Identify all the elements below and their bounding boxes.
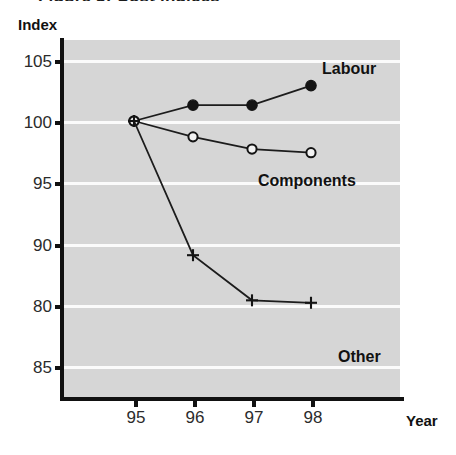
data-point-labour (306, 80, 316, 90)
series-line-labour (134, 86, 311, 121)
data-point-components (306, 148, 315, 157)
series-line-components (134, 121, 311, 153)
data-point-labour (247, 100, 257, 110)
series-label-labour: Labour (322, 60, 376, 78)
data-point-labour (188, 100, 198, 110)
figure-canvas: Figure 3: Cost indices Index Year 105 10… (0, 0, 456, 455)
series-label-other: Other (338, 348, 381, 366)
data-point-components (188, 132, 197, 141)
data-point-components (247, 144, 256, 153)
series-layer (0, 0, 456, 455)
series-line-other (134, 121, 311, 303)
series-label-components: Components (258, 172, 356, 190)
data-point-other (128, 115, 140, 127)
data-point-other (305, 297, 317, 309)
